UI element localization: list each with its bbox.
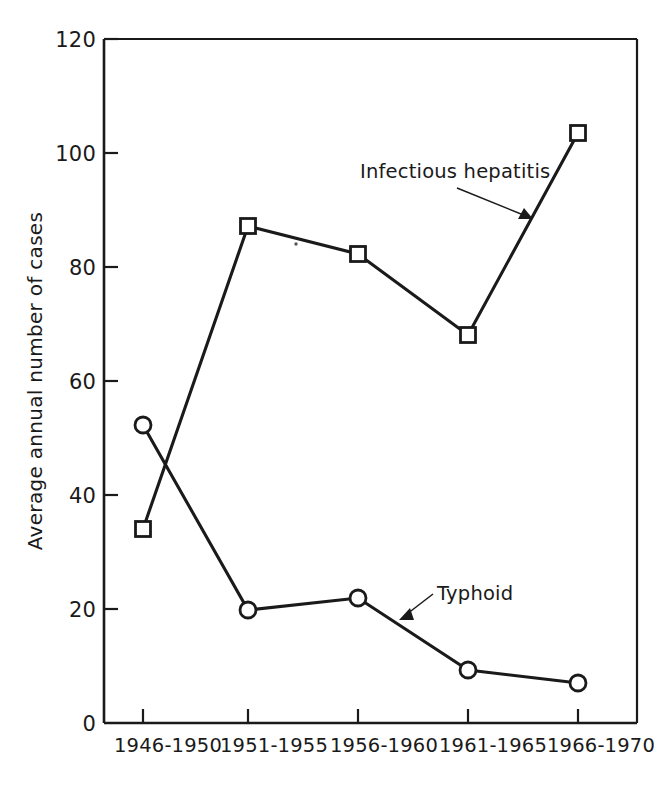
series-line-infectious-hepatitis [143, 133, 578, 529]
data-point-hepatitis-1966-1970 [571, 126, 586, 141]
data-point-hepatitis-1951-1955 [241, 219, 256, 234]
scan-speck [294, 242, 297, 245]
annotation-typhoid: Typhoid [399, 582, 513, 620]
data-point-typhoid-1966-1970 [570, 675, 586, 691]
series-typhoid [135, 417, 586, 691]
x-axis-ticks [143, 709, 578, 723]
data-point-typhoid-1961-1965 [460, 662, 476, 678]
x-tick-label-1: 1951-1955 [220, 734, 328, 757]
series-infectious-hepatitis [136, 126, 586, 537]
y-tick-label-20: 20 [69, 598, 96, 622]
data-point-typhoid-1956-1960 [350, 590, 366, 606]
y-tick-label-100: 100 [55, 142, 96, 166]
data-point-hepatitis-1961-1965 [461, 328, 476, 343]
chart-figure: 120 100 80 60 40 20 0 Average annual num… [0, 0, 670, 785]
y-axis-ticks [104, 39, 118, 609]
y-tick-label-0: 0 [82, 712, 96, 736]
x-axis-tick-labels: 1946-1950 1951-1955 1956-1960 1961-1965 … [114, 734, 655, 757]
data-point-typhoid-1951-1955 [240, 602, 256, 618]
data-point-typhoid-1946-1950 [135, 417, 151, 433]
annotation-infectious-hepatitis: Infectious hepatitis [360, 160, 550, 219]
x-tick-label-0: 1946-1950 [114, 734, 222, 757]
y-tick-label-40: 40 [69, 484, 96, 508]
x-tick-label-4: 1966-1970 [547, 734, 655, 757]
data-point-hepatitis-1956-1960 [351, 247, 366, 262]
x-tick-label-3: 1961-1965 [439, 734, 547, 757]
annotation-label-typhoid: Typhoid [436, 582, 513, 605]
y-tick-label-80: 80 [69, 256, 96, 280]
y-tick-label-60: 60 [69, 370, 96, 394]
annotation-leader-hepatitis [457, 188, 526, 216]
plot-frame [104, 39, 637, 723]
series-line-typhoid [143, 425, 578, 683]
y-axis-tick-labels: 120 100 80 60 40 20 0 [55, 28, 96, 736]
y-tick-label-120: 120 [55, 28, 96, 52]
data-point-hepatitis-1946-1950 [136, 522, 151, 537]
y-axis-title: Average annual number of cases [23, 212, 47, 550]
annotation-label-infectious-hepatitis: Infectious hepatitis [360, 160, 550, 183]
x-tick-label-2: 1956-1960 [330, 734, 438, 757]
line-chart-canvas: 120 100 80 60 40 20 0 Average annual num… [0, 0, 670, 785]
